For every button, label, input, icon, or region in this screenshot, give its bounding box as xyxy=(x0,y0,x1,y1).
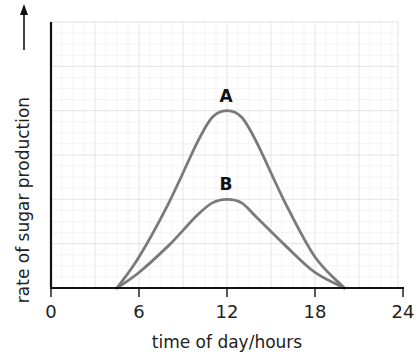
y-axis-arrow-icon xyxy=(20,4,28,50)
x-tick-label: 0 xyxy=(45,301,56,322)
y-axis-label: rate of sugar production xyxy=(13,97,33,303)
chart: AB 06121824 time of day/hours rate of su… xyxy=(0,0,418,355)
x-tick-label: 6 xyxy=(133,301,144,322)
x-tick-label: 24 xyxy=(392,301,415,322)
y-axis-label-group: rate of sugar production xyxy=(13,97,33,303)
x-ticks: 06121824 xyxy=(45,288,414,322)
series-label-a: A xyxy=(219,86,233,106)
grid xyxy=(51,22,398,288)
series-label-b: B xyxy=(220,174,233,194)
x-tick-label: 12 xyxy=(216,301,239,322)
x-tick-label: 18 xyxy=(304,301,327,322)
x-axis-label: time of day/hours xyxy=(152,332,303,352)
series-labels: AB xyxy=(219,86,233,195)
